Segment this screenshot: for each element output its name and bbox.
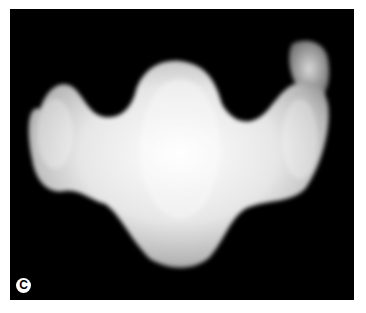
tooth-render-image bbox=[10, 9, 354, 300]
photo-frame bbox=[10, 9, 354, 300]
panel-label-badge: C bbox=[16, 278, 31, 293]
